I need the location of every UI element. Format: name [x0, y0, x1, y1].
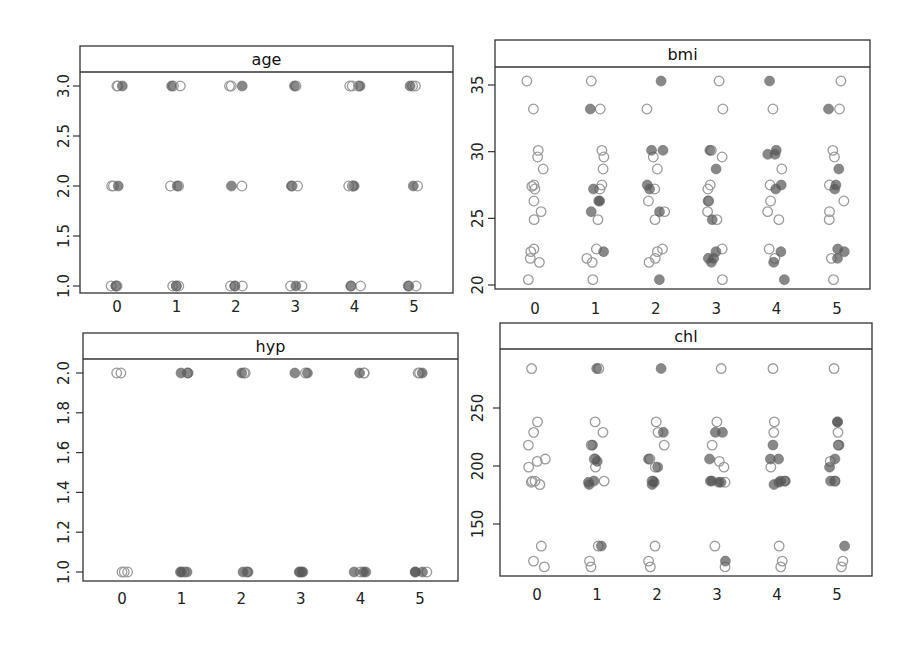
- imputed-point: [825, 462, 835, 472]
- observed-point: [718, 104, 728, 114]
- x-tick-label: 2: [231, 298, 241, 316]
- observed-point: [527, 364, 537, 374]
- imputed-point: [177, 567, 187, 577]
- imputed-point: [720, 556, 730, 566]
- x-tick-label: 1: [591, 300, 601, 318]
- imputed-point: [117, 81, 127, 91]
- imputed-point: [113, 181, 123, 191]
- imputed-point: [584, 480, 594, 490]
- imputed-point: [355, 81, 365, 91]
- panel-title: age: [252, 50, 282, 69]
- y-tick-label: 30: [469, 142, 487, 161]
- y-tick-label: 2.0: [55, 361, 73, 385]
- observed-point: [586, 562, 596, 572]
- imputed-point: [830, 476, 840, 486]
- imputed-point: [771, 184, 781, 194]
- imputed-point: [654, 275, 664, 285]
- imputed-point: [658, 427, 668, 437]
- observed-point: [829, 364, 839, 374]
- observed-point: [529, 556, 539, 566]
- imputed-point: [596, 541, 606, 551]
- panel-title: chl: [674, 327, 697, 346]
- imputed-point: [289, 81, 299, 91]
- panel-chl: chl150200250012345: [469, 323, 872, 604]
- observed-point: [598, 428, 608, 438]
- imputed-point: [714, 477, 724, 487]
- observed-point: [593, 215, 603, 225]
- x-tick-label: 2: [651, 300, 661, 318]
- observed-point: [714, 76, 724, 86]
- observed-point: [533, 152, 543, 162]
- imputed-point: [765, 76, 775, 86]
- x-tick-label: 0: [530, 300, 540, 318]
- observed-point: [659, 440, 669, 450]
- imputed-point: [585, 104, 595, 114]
- x-tick-label: 1: [172, 298, 182, 316]
- observed-point: [837, 562, 847, 572]
- observed-point: [529, 215, 539, 225]
- imputed-point: [769, 257, 779, 267]
- imputed-point: [832, 417, 842, 427]
- observed-point: [599, 152, 609, 162]
- observed-point: [718, 275, 728, 285]
- observed-point: [766, 196, 776, 206]
- observed-point: [712, 417, 722, 427]
- panel-frame: [495, 40, 870, 289]
- observed-point: [356, 281, 366, 291]
- observed-point: [536, 207, 546, 217]
- y-tick-label: 1.4: [55, 480, 73, 504]
- imputed-point: [711, 164, 721, 174]
- imputed-point: [237, 81, 247, 91]
- imputed-point: [171, 281, 181, 291]
- imputed-point: [833, 253, 843, 263]
- observed-point: [522, 76, 532, 86]
- observed-point: [524, 462, 534, 472]
- imputed-point: [302, 368, 312, 378]
- observed-point: [537, 541, 547, 551]
- observed-point: [830, 152, 840, 162]
- imputed-point: [824, 104, 834, 114]
- observed-point: [529, 196, 539, 206]
- y-tick-label: 250: [469, 394, 487, 423]
- y-tick-label: 1.6: [55, 441, 73, 465]
- observed-point: [588, 275, 598, 285]
- observed-point: [776, 562, 786, 572]
- observed-point: [768, 364, 778, 374]
- observed-point: [538, 164, 548, 174]
- y-tick-label: 1.0: [55, 274, 73, 298]
- observed-point: [117, 567, 127, 577]
- x-tick-label: 4: [772, 300, 782, 318]
- imputed-point: [776, 247, 786, 257]
- imputed-point: [238, 567, 248, 577]
- observed-point: [768, 104, 778, 114]
- observed-point: [716, 364, 726, 374]
- observed-point: [529, 104, 539, 114]
- observed-point: [769, 428, 779, 438]
- observed-point: [533, 417, 543, 427]
- x-tick-label: 3: [296, 590, 306, 608]
- observed-point: [535, 258, 545, 268]
- imputed-point: [769, 480, 779, 490]
- imputed-point: [291, 281, 301, 291]
- imputed-point: [705, 145, 715, 155]
- imputed-point: [647, 480, 657, 490]
- observed-point: [642, 104, 652, 114]
- imputed-point: [588, 184, 598, 194]
- imputed-point: [592, 364, 602, 374]
- imputed-point: [658, 145, 668, 155]
- imputed-point: [359, 567, 369, 577]
- x-tick-label: 5: [832, 300, 842, 318]
- observed-point: [590, 417, 600, 427]
- imputed-point: [349, 567, 359, 577]
- observed-point: [839, 196, 849, 206]
- observed-point: [524, 440, 534, 450]
- y-tick-label: 1.8: [55, 401, 73, 425]
- x-tick-label: 0: [117, 590, 127, 608]
- imputed-point: [403, 281, 413, 291]
- imputed-point: [172, 181, 182, 191]
- x-tick-label: 1: [177, 590, 187, 608]
- x-tick-label: 3: [711, 300, 721, 318]
- observed-point: [707, 440, 717, 450]
- imputed-point: [410, 567, 420, 577]
- panel-frame: [83, 333, 458, 581]
